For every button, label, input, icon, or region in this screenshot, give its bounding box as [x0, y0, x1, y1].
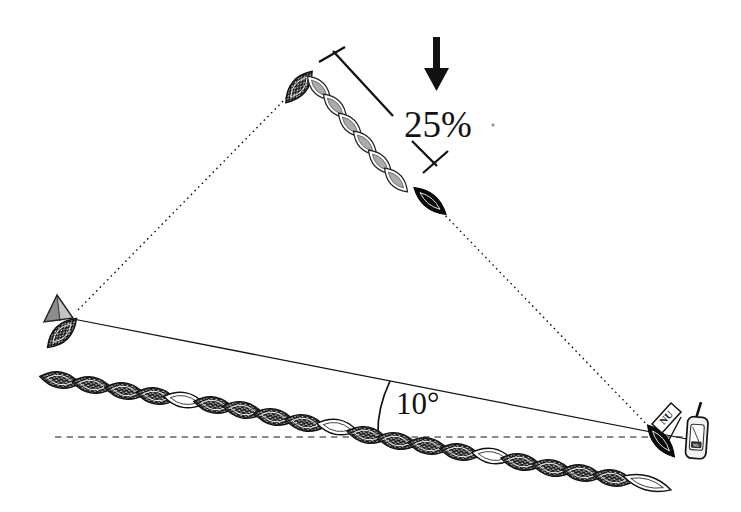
- home-route-fish-chain: [38, 369, 673, 497]
- fish-marker: [409, 182, 450, 220]
- home-direction-line: [68, 318, 692, 440]
- gps-screen-label: NU: [693, 443, 701, 448]
- gps-device: NU: [685, 401, 709, 459]
- angle-arc: [378, 381, 390, 434]
- down-arrow-icon: [424, 37, 449, 91]
- outbound-dotted-line: [78, 94, 290, 310]
- return-dotted-line: [442, 212, 655, 433]
- diagram-canvas: 10° 25% NU NU: [0, 0, 741, 512]
- angle-label: 10°: [396, 386, 439, 421]
- displacement-experiment-figure: 10° 25% NU NU: [0, 0, 741, 512]
- percent-label: 25%: [404, 104, 472, 145]
- landmark-pyramid: [44, 295, 73, 322]
- fish-marker: [70, 374, 113, 397]
- fish-marker: [380, 164, 412, 197]
- print-dot: [492, 124, 495, 127]
